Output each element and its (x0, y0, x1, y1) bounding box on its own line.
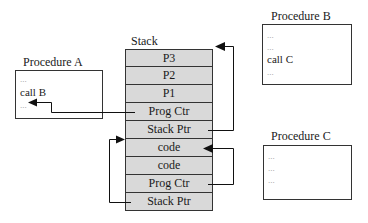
stack-title: Stack (131, 35, 158, 48)
arrowhead-left-icon (215, 42, 225, 51)
procedure-b-box: ... ... call C ... (262, 24, 352, 85)
procedure-b-title: Procedure B (271, 10, 331, 23)
procedure-b-line-3: call C (267, 53, 293, 65)
stack: P3 P2 P1 Prog Ctr Stack Ptr code code Pr… (125, 49, 213, 211)
stack-cell-prog-ctr-2: Prog Ctr (125, 175, 213, 193)
procedure-c-line-2: ... (268, 162, 275, 174)
procedure-b-line-2: ... (267, 41, 274, 53)
arrowhead-right-icon (116, 136, 125, 144)
procedure-a-line-2: call B (20, 86, 46, 98)
procedure-a-line-3: ... (20, 99, 27, 111)
procedure-c-line-1: ... (268, 150, 275, 162)
procedure-a-line-1: ... (20, 73, 27, 85)
stack-cell-code-2: code (125, 157, 213, 175)
stack-cell-p1: P1 (125, 85, 213, 103)
stack-cell-stack-ptr-2: Stack Ptr (125, 193, 213, 211)
procedure-b-line-4: ... (267, 66, 274, 78)
procedure-c-box: ... ... ... (263, 145, 352, 200)
procedure-c-title: Procedure C (271, 130, 331, 143)
procedure-a-title: Procedure A (23, 56, 83, 69)
stack-cell-stack-ptr-1: Stack Ptr (125, 121, 213, 139)
stack-cell-p3: P3 (125, 49, 213, 67)
procedure-c-line-3: ... (268, 174, 275, 186)
procedure-b-line-1: ... (267, 29, 274, 41)
procedure-a-box: ... call B ... (15, 70, 103, 119)
stack-cell-prog-ctr-1: Prog Ctr (125, 103, 213, 121)
stack-cell-p2: P2 (125, 67, 213, 85)
stack-cell-code-1: code (125, 139, 213, 157)
